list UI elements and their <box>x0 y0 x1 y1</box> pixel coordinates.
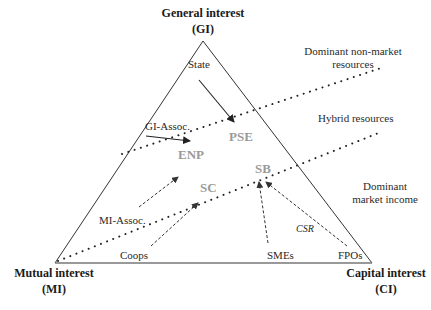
zone-label-line: Dominant non-market <box>298 45 408 58</box>
vertex-abbr: (GI) <box>153 21 253 37</box>
vertex-abbr: (CI) <box>338 281 431 297</box>
vertex-capital-interest: Capital interest (CI) <box>338 265 431 297</box>
actor-state: State <box>188 58 210 71</box>
mi-assoc-to-sc-arrow <box>139 177 178 207</box>
enterprise-sc: SC <box>200 181 217 194</box>
zone-label-hybrid: Hybrid resources <box>318 112 393 125</box>
state-to-pse-arrow <box>199 80 234 122</box>
actor-gi-assoc: GI-Assoc. <box>145 120 190 133</box>
vertex-label: General interest <box>153 5 253 21</box>
zone-label-non-market: Dominant non-market resources <box>298 45 408 71</box>
zone-label-market-income: Dominant market income <box>345 180 425 206</box>
zone-label-line: Dominant <box>345 180 425 193</box>
triangle <box>55 41 372 263</box>
actor-smes: SMEs <box>267 249 294 262</box>
zone-label-line: resources <box>298 58 408 71</box>
enterprise-enp: ENP <box>178 148 204 161</box>
vertex-label: Mutual interest <box>4 265 104 281</box>
zone-label-line: market income <box>345 193 425 206</box>
actor-mi-assoc: MI-Assoc. <box>99 214 146 227</box>
lower-boundary-dotted-line <box>58 132 381 261</box>
gi-assoc-to-enp-arrow <box>146 136 190 141</box>
actor-fpos: FPOs <box>338 249 362 262</box>
vertex-general-interest: General interest (GI) <box>153 5 253 37</box>
coops-to-sc-arrow <box>151 203 198 246</box>
enterprise-pse: PSE <box>229 130 253 143</box>
enterprise-sb: SB <box>255 162 271 175</box>
actor-coops: Coops <box>120 249 148 262</box>
annotation-csr: CSR <box>296 222 314 235</box>
vertex-label: Capital interest <box>338 265 431 281</box>
vertex-mutual-interest: Mutual interest (MI) <box>4 265 104 297</box>
vertex-abbr: (MI) <box>4 281 104 297</box>
triangle-right-edge <box>203 41 372 263</box>
smes-to-sb-arrow <box>259 182 268 243</box>
